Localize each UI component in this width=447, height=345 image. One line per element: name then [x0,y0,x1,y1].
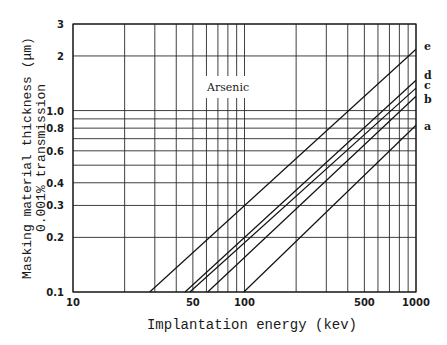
x-tick-label: 100 [234,297,255,308]
y-tick-label: 3 [57,19,64,30]
x-tick-label: 500 [354,297,375,308]
x-tick-label: 10 [66,297,80,308]
annotation-arsenic: Arsenic [206,81,249,94]
curve-e [150,49,416,292]
y-axis-label-line1: Masking material thickness (μm) [20,37,35,279]
x-tick-label: 1000 [402,297,430,308]
x-axis-label: Implantation energy (kev) [147,317,357,333]
y-tick-label: 0.1 [46,287,64,298]
curve-label-a: a [424,120,431,133]
curve-label-b: b [424,93,432,106]
y-tick-label: 2 [57,51,64,62]
x-axis-ticks: 10501005001000 [66,297,430,308]
x-tick-label: 50 [186,297,200,308]
y-tick-label: 0.2 [46,232,64,243]
curve-b [208,96,416,292]
data-curves [150,49,416,292]
y-axis-label-line2: 0.001% transmission [34,84,49,232]
curve-label-e: e [424,40,431,53]
curve-d [185,80,416,292]
curve-labels: abcde [424,40,432,133]
gridlines [73,24,416,292]
chart: abcde 10501005001000 0.10.20.30.40.60.81… [0,0,447,345]
curve-a [244,125,416,292]
curve-label-d: d [424,69,432,82]
